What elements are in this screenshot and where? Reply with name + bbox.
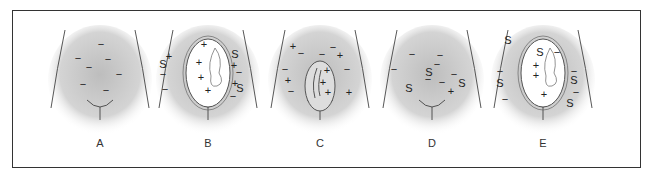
svg-text:−: − bbox=[330, 41, 336, 53]
svg-text:−: − bbox=[116, 68, 122, 80]
svg-text:−: − bbox=[434, 58, 440, 70]
svg-text:−: − bbox=[288, 85, 294, 97]
svg-text:+: + bbox=[166, 50, 172, 62]
svg-text:−: − bbox=[162, 83, 168, 95]
panel-label-e: E bbox=[533, 137, 553, 149]
svg-text:−: − bbox=[554, 46, 560, 58]
svg-text:S: S bbox=[236, 82, 243, 94]
svg-text:−: − bbox=[497, 65, 503, 77]
svg-text:−: − bbox=[298, 47, 304, 59]
svg-text:−: − bbox=[451, 68, 457, 80]
svg-text:+: + bbox=[196, 56, 202, 68]
svg-text:S: S bbox=[458, 77, 465, 89]
svg-text:+: + bbox=[533, 69, 539, 81]
svg-text:+: + bbox=[337, 49, 343, 61]
svg-text:−: − bbox=[409, 48, 415, 60]
panel-label-d: D bbox=[422, 137, 442, 149]
svg-text:−: − bbox=[319, 48, 325, 60]
svg-text:−: − bbox=[425, 73, 431, 85]
svg-text:−: − bbox=[86, 61, 92, 73]
panel-label-c: C bbox=[310, 137, 330, 149]
svg-text:S: S bbox=[536, 46, 543, 58]
panel-label-b: B bbox=[198, 137, 218, 149]
abdomen-panel-d: −−−−S−−SS−+ bbox=[377, 28, 487, 133]
svg-text:−: − bbox=[80, 78, 86, 90]
panel-label-a: A bbox=[90, 137, 110, 149]
svg-text:S: S bbox=[405, 82, 412, 94]
svg-text:−: − bbox=[103, 84, 109, 96]
abdomen-panel-e: SS+++−S−−S−−S bbox=[488, 28, 598, 133]
svg-text:+: + bbox=[205, 84, 211, 96]
abdomen-panel-a: −−−−−−− bbox=[45, 28, 155, 133]
svg-text:+: + bbox=[201, 38, 207, 50]
svg-text:+: + bbox=[541, 88, 547, 100]
svg-text:+: + bbox=[346, 86, 352, 98]
svg-text:+: + bbox=[324, 64, 330, 76]
svg-text:S: S bbox=[504, 34, 511, 46]
svg-text:S: S bbox=[566, 97, 573, 109]
svg-text:−: − bbox=[391, 63, 397, 75]
svg-text:−: − bbox=[571, 65, 577, 77]
svg-text:−: − bbox=[344, 63, 350, 75]
svg-text:+: + bbox=[198, 71, 204, 83]
svg-text:−: − bbox=[230, 90, 236, 102]
abdomen-panel-b: ++++S+−−S+−+S− bbox=[153, 28, 263, 133]
svg-text:+: + bbox=[325, 86, 331, 98]
svg-text:−: − bbox=[439, 76, 445, 88]
svg-text:−: − bbox=[502, 93, 508, 105]
svg-text:−: − bbox=[75, 52, 81, 64]
svg-text:+: + bbox=[448, 85, 454, 97]
svg-text:−: − bbox=[98, 38, 104, 50]
svg-text:−: − bbox=[160, 68, 166, 80]
svg-text:−: − bbox=[105, 53, 111, 65]
svg-text:S: S bbox=[496, 77, 503, 89]
svg-text:−: − bbox=[573, 86, 579, 98]
abdomen-panel-c: +−−−+−−+−++++ bbox=[265, 28, 375, 133]
svg-text:+: + bbox=[290, 40, 296, 52]
